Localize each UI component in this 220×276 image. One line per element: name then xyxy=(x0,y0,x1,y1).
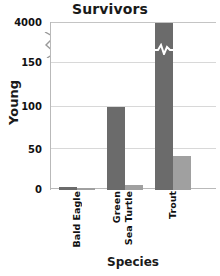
bar-green-sea-turtle-survivors xyxy=(125,185,143,190)
gridline-150 xyxy=(51,62,216,63)
x-tick-label-trout: Trout xyxy=(167,191,178,219)
y-tick-label-50: 50 xyxy=(8,144,42,155)
x-tick-trout: Trout xyxy=(154,191,190,253)
x-tick-label-green-sea-turtle-line2: Sea Turtle xyxy=(123,191,134,245)
plot-area xyxy=(50,22,216,190)
gridline-4000 xyxy=(51,22,216,23)
x-tick-label-green-sea-turtle-line1: Green xyxy=(111,191,122,223)
x-tick-label-bald-eagle: Bald Eagle xyxy=(71,191,82,247)
bar-break-icon xyxy=(154,43,174,55)
bar-trout-young xyxy=(155,23,173,190)
bar-trout-survivors xyxy=(173,156,191,190)
x-axis-title: Species xyxy=(50,255,216,269)
gridline-50 xyxy=(51,148,216,149)
x-tick-green-sea-turtle: Green Sea Turtle xyxy=(106,191,142,253)
x-axis-tick-labels: Bald Eagle Green Sea Turtle Trout xyxy=(50,191,216,253)
bar-bald-eagle-young xyxy=(59,187,77,190)
x-tick-bald-eagle: Bald Eagle xyxy=(58,191,94,253)
bar-bald-eagle-survivors xyxy=(77,188,95,190)
y-tick-label-100: 100 xyxy=(8,101,42,112)
bar-green-sea-turtle-young xyxy=(107,107,125,190)
gridline-100 xyxy=(51,106,216,107)
y-tick-label-4000: 4000 xyxy=(8,17,42,28)
chart-container: Survivors Young 4000 150 100 50 0 xyxy=(0,0,220,276)
y-tick-label-0: 0 xyxy=(8,184,42,195)
y-tick-label-150: 150 xyxy=(8,57,42,68)
y-axis-tick-labels: 4000 150 100 50 0 xyxy=(8,0,42,276)
